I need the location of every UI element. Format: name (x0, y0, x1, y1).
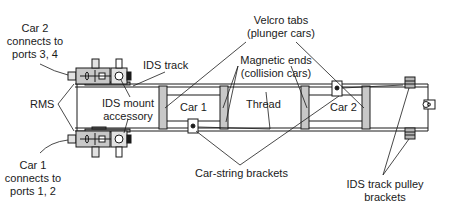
pulley-bracket-bottom (405, 128, 415, 139)
label-pulley-brackets: IDS track pulley brackets (343, 178, 427, 204)
label-line: IDS mount (96, 97, 160, 110)
label-line: connects to (0, 172, 66, 185)
label-line: accessory (96, 110, 160, 123)
label-thread: Thread (246, 98, 281, 111)
label-line: Car 1 (0, 159, 66, 172)
label-line: ports 1, 2 (0, 185, 66, 198)
label-ids-track: IDS track (143, 59, 188, 72)
label-line: Magnetic ends (232, 54, 320, 67)
label-line: IDS track pulley (343, 178, 427, 191)
label-line: connects to (2, 35, 68, 48)
rms-sensor-bottom (68, 127, 131, 157)
label-car2: Car 2 (330, 101, 357, 114)
label-ids-mount: IDS mount accessory (96, 97, 160, 123)
label-car1: Car 1 (180, 101, 207, 114)
label-rms: RMS (30, 98, 54, 111)
label-line: Velcro tabs (241, 14, 321, 27)
label-magnetic-ends: Magnetic ends (collision cars) (232, 54, 320, 80)
pulley-bracket-top (405, 77, 415, 88)
car-string-bracket-2 (332, 81, 342, 96)
label-line: brackets (343, 191, 427, 204)
label-line: (collision cars) (232, 67, 320, 80)
track-end-eyelet (423, 100, 435, 109)
label-line: Car 2 (2, 22, 68, 35)
label-line: (plunger cars) (241, 27, 321, 40)
label-car2-connects: Car 2 connects to ports 3, 4 (2, 22, 68, 61)
label-velcro-tabs: Velcro tabs (plunger cars) (241, 14, 321, 40)
label-car-string-brackets: Car-string brackets (195, 167, 288, 180)
label-line: ports 3, 4 (2, 48, 68, 61)
label-car1-connects: Car 1 connects to ports 1, 2 (0, 159, 66, 198)
